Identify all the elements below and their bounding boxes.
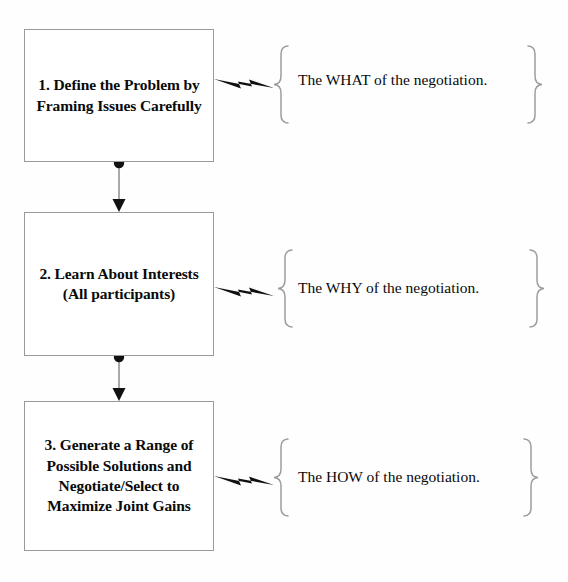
step-box-2[interactable]: 2. Learn About Interests (All participan…: [24, 212, 214, 356]
step-box-1[interactable]: 1. Define the Problem by Framing Issues …: [24, 29, 214, 162]
callout-1: The WHAT of the negotiation.: [298, 70, 487, 90]
step-box-1-label: 1. Define the Problem by Framing Issues …: [25, 75, 213, 116]
callout-3-text: The HOW of the negotiation.: [298, 467, 480, 487]
step-box-2-label: 2. Learn About Interests (All participan…: [25, 264, 213, 305]
negotiation-process-diagram: 1. Define the Problem by Framing Issues …: [0, 0, 568, 582]
callout-1-text: The WHAT of the negotiation.: [298, 70, 487, 90]
connector-step2-to-step3: [113, 352, 126, 401]
callout-3: The HOW of the negotiation.: [298, 467, 480, 487]
lightning-bolt-connector-1: [214, 79, 274, 89]
right-brace-2: [530, 250, 544, 327]
callout-2: The WHY of the negotiation.: [298, 278, 479, 298]
connector-arrowhead-2: [113, 388, 126, 401]
left-brace-1: [274, 46, 288, 123]
step-box-3[interactable]: 3. Generate a Range of Possible Solution…: [24, 401, 214, 551]
left-brace-3: [274, 439, 288, 516]
callout-2-text: The WHY of the negotiation.: [298, 278, 479, 298]
connector-step1-to-step2: [113, 158, 126, 212]
left-brace-2: [278, 250, 292, 327]
right-brace-3: [524, 439, 538, 516]
connector-arrowhead-1: [113, 199, 126, 212]
step-box-3-label: 3. Generate a Range of Possible Solution…: [25, 435, 213, 517]
lightning-bolt-connector-2: [214, 287, 274, 297]
lightning-bolt-connector-3: [214, 476, 274, 486]
right-brace-1: [528, 46, 542, 123]
